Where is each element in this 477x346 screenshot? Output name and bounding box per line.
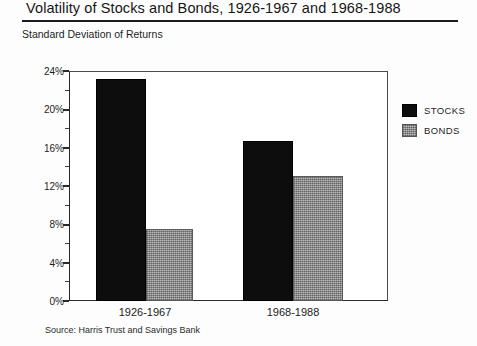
legend-label-bonds: BONDS <box>424 125 460 136</box>
y-axis-labels: 0% 4% 8% 12% 16% 20% 24% <box>0 0 64 346</box>
bar-bonds-1968-1988[interactable] <box>293 176 343 301</box>
legend-label-stocks: STOCKS <box>424 105 465 116</box>
legend-item-stocks[interactable]: STOCKS <box>402 104 465 117</box>
legend-item-bonds[interactable]: BONDS <box>402 124 465 137</box>
y-minor-tick-6 <box>65 243 69 244</box>
y-tick-label-20: 20% <box>44 104 64 115</box>
y-minor-tick-2 <box>65 281 69 282</box>
y-minor-tick-10 <box>65 205 69 206</box>
bar-bonds-1926-1967[interactable] <box>146 229 193 301</box>
bar-stocks-1968-1988[interactable] <box>243 141 293 301</box>
legend-swatch-bonds-icon <box>402 124 417 137</box>
y-major-tick-24 <box>63 70 69 72</box>
title-divider <box>22 20 458 22</box>
y-tick-label-8: 8% <box>50 219 64 230</box>
y-tick-label-24: 24% <box>44 66 64 77</box>
x-tick-label-1968-1988: 1968-1988 <box>267 306 320 318</box>
bars-layer <box>70 72 387 301</box>
y-tick-label-12: 12% <box>44 181 64 192</box>
legend-swatch-stocks-icon <box>402 104 417 117</box>
chart-page: Volatility of Stocks and Bonds, 1926-196… <box>0 0 477 346</box>
y-major-tick-0 <box>63 300 69 302</box>
y-major-tick-16 <box>63 147 69 149</box>
y-tick-label-16: 16% <box>44 142 64 153</box>
y-major-tick-20 <box>63 109 69 111</box>
y-major-tick-12 <box>63 185 69 187</box>
y-minor-tick-14 <box>65 166 69 167</box>
y-tick-label-4: 4% <box>50 257 64 268</box>
source-note: Source: Harris Trust and Savings Bank <box>45 325 200 335</box>
y-major-tick-8 <box>63 224 69 226</box>
bar-stocks-1926-1967[interactable] <box>96 79 146 301</box>
x-tick-label-1926-1967: 1926-1967 <box>119 306 172 318</box>
page-title: Volatility of Stocks and Bonds, 1926-196… <box>26 0 456 16</box>
y-tick-label-0: 0% <box>50 296 64 307</box>
legend: STOCKS BONDS <box>402 104 465 144</box>
y-minor-tick-22 <box>65 90 69 91</box>
y-major-tick-4 <box>63 262 69 264</box>
y-minor-tick-18 <box>65 128 69 129</box>
